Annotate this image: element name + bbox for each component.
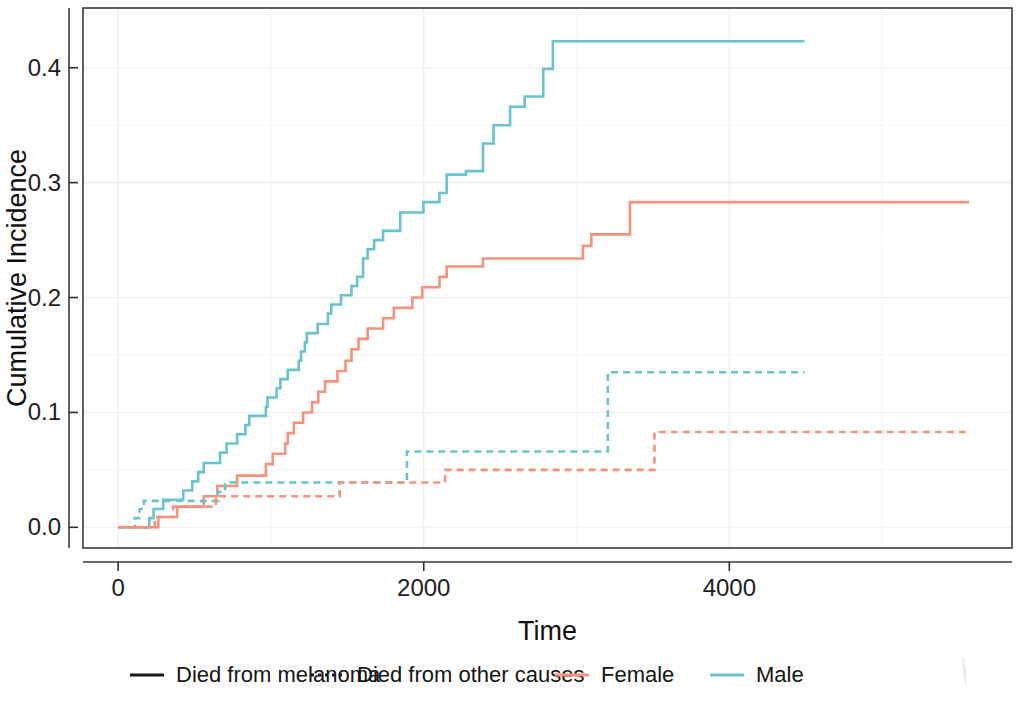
x-tick-label: 0	[111, 574, 124, 601]
legend-label: Male	[756, 662, 804, 687]
y-tick-label: 0.3	[28, 169, 61, 196]
x-tick-label: 2000	[397, 574, 450, 601]
y-axis-title: Cumulative Incidence	[2, 149, 32, 407]
y-tick-label: 0.2	[28, 284, 61, 311]
cumulative-incidence-chart: 020004000 Time 0.00.10.20.30.4 Cumulativ…	[0, 0, 1018, 703]
plot-panel	[83, 8, 1012, 548]
y-tick-label: 0.0	[28, 513, 61, 540]
x-axis-title: Time	[518, 616, 577, 646]
x-tick-label: 4000	[703, 574, 756, 601]
y-tick-label: 0.4	[28, 54, 61, 81]
legend-label: Female	[601, 662, 674, 687]
y-tick-label: 0.1	[28, 398, 61, 425]
panel-background	[83, 8, 1012, 548]
legend-label: Died from other causes	[357, 662, 584, 687]
legend-label: Died from melanoma	[176, 662, 381, 687]
